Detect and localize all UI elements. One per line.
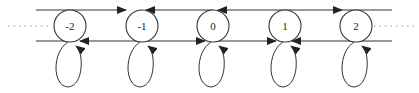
state-node-n-1: -1 [126,10,158,42]
node-label: 2 [353,20,359,32]
self-loop-n-2 [56,42,81,87]
node-label: -1 [137,20,146,32]
self-loop-n1 [271,42,296,87]
state-node-n1: 1 [269,10,301,42]
self-loop-n2 [342,42,367,87]
state-node-n0: 0 [197,10,229,42]
node-label: 1 [282,20,288,32]
self-loop-n0 [199,42,224,87]
node-label: 0 [210,20,216,32]
node-label: -2 [65,20,74,32]
state-node-n2: 2 [340,10,372,42]
self-loops [56,42,367,87]
markov-chain-diagram: -2 -1 0 1 2 [0,0,419,93]
state-node-n-2: -2 [54,10,86,42]
self-loop-n-1 [128,42,153,87]
